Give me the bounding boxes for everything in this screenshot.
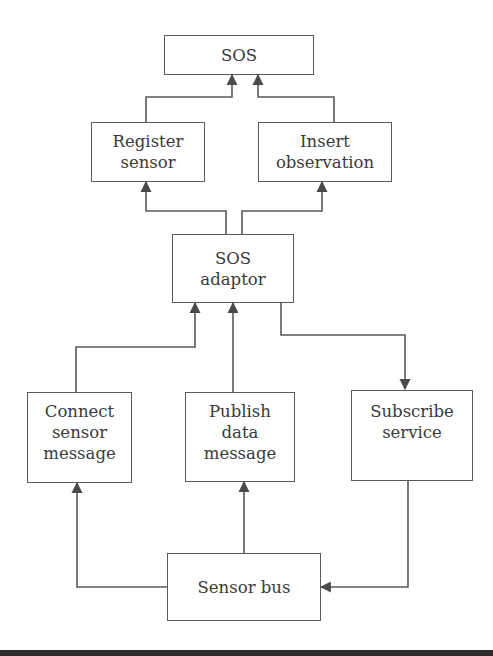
node-sos: SOS	[164, 35, 314, 75]
node-connect-sensor-message: Connect sensor message	[27, 392, 132, 483]
node-label: Insert observation	[276, 131, 374, 173]
edge-register-to-sos	[146, 75, 232, 122]
node-label: Register sensor	[113, 131, 184, 173]
node-sensor-bus: Sensor bus	[167, 553, 321, 621]
sos-sensor-bus-diagram: SOS Register sensor Insert observation S…	[0, 0, 493, 656]
node-insert-observation: Insert observation	[258, 122, 392, 182]
edge-adaptor-to-insert	[242, 182, 322, 234]
node-subscribe-service: Subscribe service	[351, 390, 473, 481]
node-label: SOS adaptor	[200, 248, 265, 290]
node-label: Sensor bus	[198, 577, 291, 598]
edge-subscribe-to-bus	[321, 480, 408, 587]
node-label: Subscribe service	[370, 401, 454, 443]
node-label: SOS	[221, 45, 257, 66]
edge-connect-to-adaptor	[76, 303, 195, 392]
node-label: Connect sensor message	[43, 401, 116, 464]
node-label: Publish data message	[204, 401, 277, 464]
edge-adaptor-to-subscribe	[281, 302, 405, 389]
edge-adaptor-to-register	[146, 182, 226, 234]
node-sos-adaptor: SOS adaptor	[172, 234, 294, 303]
edge-bus-to-connect	[77, 483, 167, 587]
bottom-divider	[0, 650, 493, 656]
edge-insert-to-sos	[258, 75, 334, 122]
node-publish-data-message: Publish data message	[185, 392, 295, 482]
node-register-sensor: Register sensor	[91, 122, 205, 182]
